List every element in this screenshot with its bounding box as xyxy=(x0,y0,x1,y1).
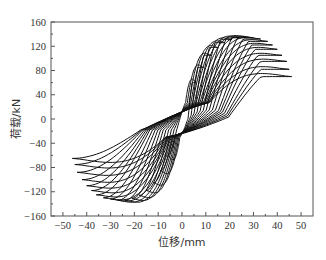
hysteresis-loop xyxy=(118,36,247,203)
y-tick-label: −160 xyxy=(24,211,46,222)
x-tick-label: −20 xyxy=(126,220,142,231)
x-tick-label: −40 xyxy=(79,220,95,231)
hysteresis-loop xyxy=(77,59,287,175)
y-tick-label: −40 xyxy=(30,138,46,149)
y-tick-label: 160 xyxy=(30,17,46,28)
x-tick-label: 0 xyxy=(179,220,184,231)
y-tick-label: 120 xyxy=(30,41,46,52)
x-tick-label: 20 xyxy=(224,220,235,231)
x-tick-label: 10 xyxy=(201,220,212,231)
y-tick-label: −120 xyxy=(24,186,46,197)
y-tick-label: 80 xyxy=(36,65,47,76)
hysteresis-loop xyxy=(92,43,273,193)
hysteresis-loop xyxy=(72,74,291,163)
y-axis-title: 荷载/kN xyxy=(10,99,23,139)
x-tick-label: 30 xyxy=(248,220,259,231)
hysteresis-loop xyxy=(75,67,289,168)
hysteresis-chart: −50−40−30−20−1001020304050 −160−120−80−4… xyxy=(0,0,326,260)
hysteresis-loops xyxy=(72,36,291,203)
y-tick-label: −80 xyxy=(30,162,46,173)
hysteresis-loop xyxy=(139,41,225,198)
x-tick-label: −10 xyxy=(150,220,166,231)
y-axis-ticks: −160−120−80−4004080120160 xyxy=(24,17,55,222)
plot-frame xyxy=(51,22,313,216)
x-tick-label: −50 xyxy=(55,220,71,231)
x-axis-ticks: −50−40−30−20−1001020304050 xyxy=(55,212,307,231)
x-tick-label: 40 xyxy=(272,220,283,231)
y-tick-label: 0 xyxy=(41,114,46,125)
x-axis-title: 位移/mm xyxy=(158,235,205,249)
y-tick-label: 40 xyxy=(36,89,47,100)
x-tick-label: −30 xyxy=(102,220,118,231)
x-tick-label: 50 xyxy=(296,220,307,231)
